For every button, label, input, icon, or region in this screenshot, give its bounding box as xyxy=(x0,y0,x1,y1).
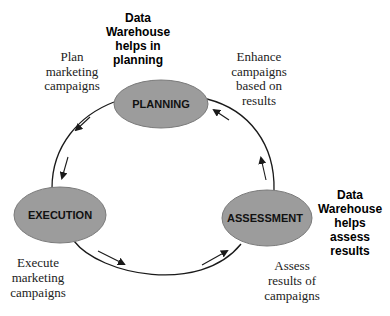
annotation-line: marketing xyxy=(12,270,65,285)
annotation-line: marketing xyxy=(46,64,99,79)
annotation-line: Execute xyxy=(17,255,59,270)
annotation-line: helps xyxy=(334,216,366,230)
annotation-line: Assess xyxy=(274,258,309,273)
annotation-plan: Plan marketing campaigns xyxy=(44,49,100,93)
annotation-line: campaigns xyxy=(264,288,320,303)
annotation-line: Enhance xyxy=(237,49,282,64)
annotation-assess: Assess results of campaigns xyxy=(264,258,320,303)
node-label: PLANNING xyxy=(132,98,189,110)
annotation-dw-planning: Data Warehouse helps in planning xyxy=(106,11,171,67)
annotation-line: Data xyxy=(337,188,363,202)
annotation-line: campaigns xyxy=(10,285,66,300)
planning-cycle-diagram: PLANNING EXECUTION ASSESSMENT Plan marke… xyxy=(0,0,390,316)
annotation-line: Plan xyxy=(60,49,84,64)
node-label: ASSESSMENT xyxy=(227,212,303,224)
annotation-line: campaigns xyxy=(231,64,287,79)
arrow-icon xyxy=(76,117,90,130)
arrow-icon xyxy=(261,158,266,180)
annotation-line: campaigns xyxy=(44,78,100,93)
annotation-line: Warehouse xyxy=(318,202,383,216)
annotation-dw-assess: Data Warehouse helps assess results xyxy=(318,188,383,258)
arrow-icon xyxy=(202,251,227,265)
node-planning: PLANNING xyxy=(114,80,208,128)
annotation-line: Warehouse xyxy=(106,25,171,39)
arc-execution-to-assessment xyxy=(74,241,241,275)
arc-planning-to-execution xyxy=(52,102,114,188)
annotation-execute: Execute marketing campaigns xyxy=(10,255,66,300)
node-label: EXECUTION xyxy=(28,209,92,221)
annotation-line: planning xyxy=(113,53,163,67)
arrow-icon xyxy=(62,157,68,178)
node-execution: EXECUTION xyxy=(14,187,106,243)
annotation-line: results xyxy=(242,93,276,108)
annotation-line: results of xyxy=(268,273,317,288)
annotation-enhance: Enhance campaigns based on results xyxy=(231,49,287,108)
arrow-icon xyxy=(214,110,229,120)
annotation-line: helps in xyxy=(115,39,160,53)
annotation-line: Data xyxy=(125,11,151,25)
annotation-line: results xyxy=(330,244,370,258)
annotation-line: based on xyxy=(236,78,282,93)
annotation-line: assess xyxy=(330,230,370,244)
node-assessment: ASSESSMENT xyxy=(222,190,312,246)
